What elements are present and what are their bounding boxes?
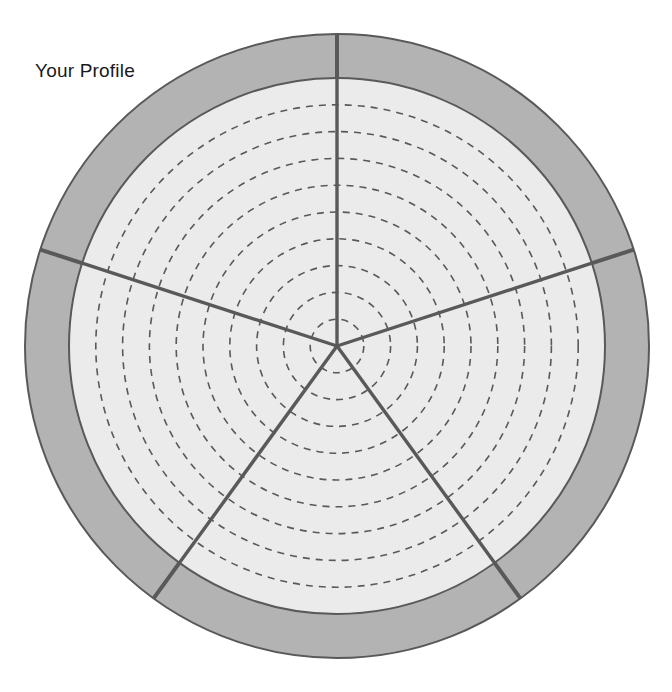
radar-chart-canvas — [0, 0, 672, 692]
page-title: Your Profile — [35, 60, 135, 82]
radar-chart: Your Profile — [0, 0, 672, 692]
